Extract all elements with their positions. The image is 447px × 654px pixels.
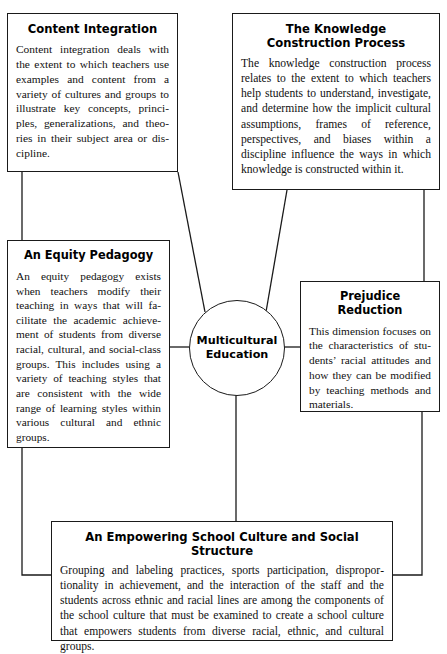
node-body-prejudice-reduction: This dimension focuses on the characteri…	[309, 324, 431, 412]
node-content-integration: Content Integration Content integration …	[7, 13, 178, 172]
node-title-knowledge-construction: The Knowledge Construction Process	[241, 22, 431, 50]
connector-prejudice-reduction-to-empowering-culture	[393, 412, 422, 575]
node-empowering-culture: An Empowering School Culture and Social …	[51, 521, 393, 641]
node-title-equity-pedagogy: An Equity Pedagogy	[16, 249, 161, 263]
node-body-equity-pedagogy: An equity pedagogy exists when teachers …	[16, 269, 161, 445]
node-title-empowering-culture: An Empowering School Culture and Social …	[60, 530, 384, 558]
node-knowledge-construction: The Knowledge Construction Process The k…	[232, 13, 440, 190]
node-body-content-integration: Content integration deals with the exten…	[16, 42, 169, 161]
center-node-label: Multicultural Education	[197, 334, 278, 363]
connector-knowledge-construction-to-center	[266, 190, 287, 312]
center-node-multicultural-education: Multicultural Education	[189, 300, 285, 396]
node-body-knowledge-construction: The knowledge construction process relat…	[241, 56, 431, 177]
connector-content-integration-to-center	[178, 172, 205, 312]
node-body-empowering-culture: Grouping and labeling practices, sports …	[60, 563, 384, 653]
node-prejudice-reduction: Prejudice Reduction This dimension focus…	[300, 281, 440, 412]
node-title-prejudice-reduction: Prejudice Reduction	[309, 290, 431, 318]
connector-equity-pedagogy-to-empowering-culture	[22, 448, 51, 575]
node-title-content-integration: Content Integration	[16, 22, 169, 36]
node-equity-pedagogy: An Equity Pedagogy An equity pedagogy ex…	[7, 240, 170, 448]
